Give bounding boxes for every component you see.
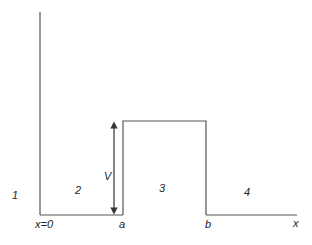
region-label-4: 4: [244, 186, 250, 198]
barrier: [123, 121, 206, 215]
a-label: a: [119, 218, 125, 230]
b-label: b: [205, 218, 211, 230]
region-label-3: 3: [159, 182, 166, 194]
x-axis-label: x: [292, 217, 299, 229]
region-label-1: 1: [12, 189, 18, 201]
origin-label: x=0: [34, 218, 54, 230]
potential-barrier-diagram: 1 2 3 4 V x=0 a b x: [0, 0, 312, 245]
region-label-2: 2: [74, 184, 81, 196]
height-label: V: [104, 170, 113, 182]
